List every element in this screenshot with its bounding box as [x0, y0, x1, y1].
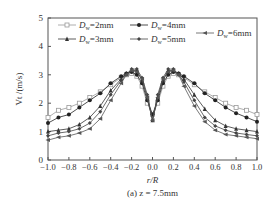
x-tick-label: 0.0 — [147, 162, 158, 172]
legend: Dw=2mmDw=4mmDw=3mmDw=5mmDw=6mm — [58, 20, 251, 45]
svg-text:Dw=5mm: Dw=5mm — [150, 34, 185, 45]
x-tick-label: −0.4 — [103, 162, 119, 172]
y-tick-label: 2 — [39, 98, 44, 108]
x-tick-label: 0.2 — [168, 162, 179, 172]
x-axis-label: r/R — [147, 175, 159, 185]
y-tick-label: 5 — [39, 13, 44, 23]
legend-item: Dw=3mm — [58, 34, 113, 45]
y-axis-label: Vt /(m/s) — [14, 73, 24, 106]
y-tick-label: 3 — [39, 70, 44, 80]
legend-item: Dw=5mm — [130, 34, 185, 45]
x-tick-label: 0.6 — [210, 162, 221, 172]
y-tick-label: 1 — [39, 127, 44, 137]
legend-item: Dw=6mm — [196, 28, 251, 39]
y-tick-label: 4 — [39, 41, 44, 51]
x-tick-label: −0.6 — [82, 162, 97, 172]
svg-text:Dw=4mm: Dw=4mm — [150, 20, 185, 31]
x-tick-label: −0.2 — [124, 162, 139, 172]
line-chart: 012345−1.0−0.8−0.6−0.4−0.20.00.20.40.60.… — [0, 0, 278, 215]
figure-caption: (a) z = 7.5mm — [127, 188, 178, 198]
x-tick-label: −1.0 — [40, 162, 55, 172]
x-tick-label: 0.8 — [231, 162, 242, 172]
svg-text:Dw=2mm: Dw=2mm — [78, 20, 113, 31]
x-tick-label: −0.8 — [61, 162, 76, 172]
legend-item: Dw=4mm — [130, 20, 185, 31]
chart-figure: 012345−1.0−0.8−0.6−0.4−0.20.00.20.40.60.… — [0, 0, 278, 215]
legend-item: Dw=2mm — [58, 20, 113, 31]
x-tick-label: 1.0 — [252, 162, 263, 172]
x-tick-label: 0.4 — [189, 162, 200, 172]
svg-text:Dw=6mm: Dw=6mm — [216, 28, 251, 39]
svg-text:Dw=3mm: Dw=3mm — [78, 34, 113, 45]
series-d-w-2mm — [46, 71, 259, 119]
